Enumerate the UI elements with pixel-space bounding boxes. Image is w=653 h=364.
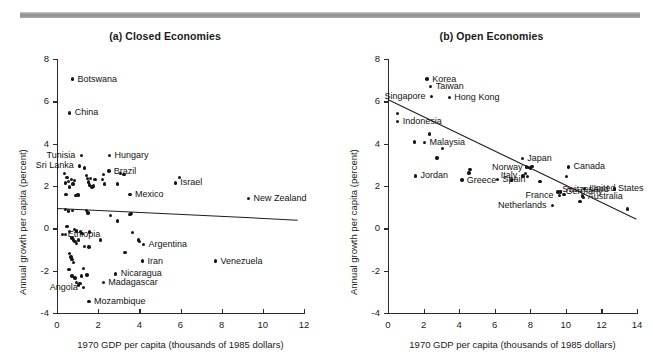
data-point-labeled	[107, 169, 110, 172]
data-point	[64, 233, 67, 236]
x-tick-label: 8	[516, 319, 544, 330]
data-point-labeled	[71, 77, 74, 80]
data-point	[83, 245, 86, 248]
data-point	[538, 180, 541, 183]
data-point	[65, 176, 68, 179]
trend-line	[57, 208, 298, 221]
point-label: Spain	[502, 175, 525, 184]
point-label: Brazil	[114, 167, 137, 176]
x-tick	[495, 309, 496, 314]
x-tick-label: 0	[43, 319, 71, 330]
data-point-labeled	[247, 197, 250, 200]
x-tick-label: 2	[410, 319, 438, 330]
x-tick	[530, 309, 531, 314]
data-point	[64, 193, 67, 196]
y-tick	[384, 228, 389, 229]
y-tick	[53, 101, 58, 102]
data-point-labeled	[214, 259, 217, 262]
data-point-labeled	[425, 77, 428, 80]
data-point	[82, 267, 85, 270]
x-tick	[139, 309, 140, 314]
panel-closed-economies: (a) Closed Economies 024681012-4-2024681…	[0, 0, 330, 364]
data-point	[71, 209, 74, 212]
point-label: Hong Kong	[454, 93, 499, 102]
data-point	[89, 177, 92, 180]
panel-open-economies: (b) Open Economies 02468101214-4-2024681…	[330, 0, 653, 364]
x-tick-label: 10	[249, 319, 277, 330]
data-point-labeled	[78, 164, 81, 167]
panel-a-title: (a) Closed Economies	[0, 30, 330, 42]
point-label: Iran	[147, 257, 163, 266]
data-point-labeled	[102, 281, 105, 284]
x-tick-label: 6	[167, 319, 195, 330]
data-point-labeled	[68, 111, 71, 114]
data-point	[80, 274, 83, 277]
x-tick-label: 6	[481, 319, 509, 330]
point-label: China	[75, 108, 99, 117]
data-point	[73, 179, 76, 182]
y-tick-label: 4	[358, 138, 380, 149]
point-label: Mexico	[135, 190, 164, 199]
data-point	[85, 273, 88, 276]
data-point	[92, 184, 95, 187]
data-point	[71, 182, 74, 185]
y-tick-label: 8	[358, 53, 380, 64]
point-label: Botswana	[77, 75, 117, 84]
x-tick-label: 4	[125, 319, 153, 330]
data-point-labeled	[114, 272, 117, 275]
data-point	[103, 182, 106, 185]
data-point	[441, 147, 444, 150]
data-point-labeled	[558, 194, 561, 197]
x-tick-label: 14	[623, 319, 651, 330]
data-point	[63, 172, 66, 175]
data-point	[626, 207, 629, 210]
y-tick	[53, 186, 58, 187]
point-label: Indonesia	[403, 117, 442, 126]
data-point	[428, 132, 431, 135]
y-tick	[384, 186, 389, 187]
y-tick	[384, 59, 389, 60]
y-tick-label: -4	[27, 307, 49, 318]
data-point	[116, 219, 119, 222]
y-tick	[384, 144, 389, 145]
data-point	[109, 214, 112, 217]
x-tick	[263, 309, 264, 314]
data-point	[72, 261, 75, 264]
data-point	[128, 213, 131, 216]
y-axis-title: Annual growth per capita (percent)	[17, 149, 28, 295]
point-label: Sri Lanka	[0, 161, 74, 170]
data-point-labeled	[141, 259, 144, 262]
y-tick-label: -4	[358, 307, 380, 318]
data-point	[526, 175, 529, 178]
data-point-labeled	[521, 157, 524, 160]
point-label: Taiwan	[436, 82, 464, 91]
data-point-labeled	[423, 141, 426, 144]
y-tick	[53, 59, 58, 60]
x-tick-label: 8	[208, 319, 236, 330]
data-point-labeled	[80, 154, 83, 157]
data-point-labeled	[87, 300, 90, 303]
data-point-labeled	[82, 286, 85, 289]
y-tick	[53, 271, 58, 272]
x-tick	[181, 309, 182, 314]
y-tick-label: -2	[27, 265, 49, 276]
point-label: Ethiopia	[68, 230, 101, 239]
point-label: Mozambique	[94, 297, 146, 306]
data-point	[93, 178, 96, 181]
data-point	[138, 240, 141, 243]
data-point	[123, 251, 126, 254]
x-tick-label: 4	[445, 319, 473, 330]
data-point	[565, 175, 568, 178]
y-tick	[384, 271, 389, 272]
y-tick	[53, 313, 58, 314]
x-tick	[459, 309, 460, 314]
data-point-labeled	[567, 165, 570, 168]
x-axis-title: 1970 GDP per capita (thousands of 1985 d…	[358, 339, 653, 350]
point-label: Madagascar	[108, 278, 158, 287]
y-tick	[384, 313, 389, 314]
data-point-labeled	[142, 243, 145, 246]
point-label: Venezuela	[220, 257, 262, 266]
data-point	[102, 173, 105, 176]
x-tick	[601, 309, 602, 314]
data-point	[77, 193, 80, 196]
